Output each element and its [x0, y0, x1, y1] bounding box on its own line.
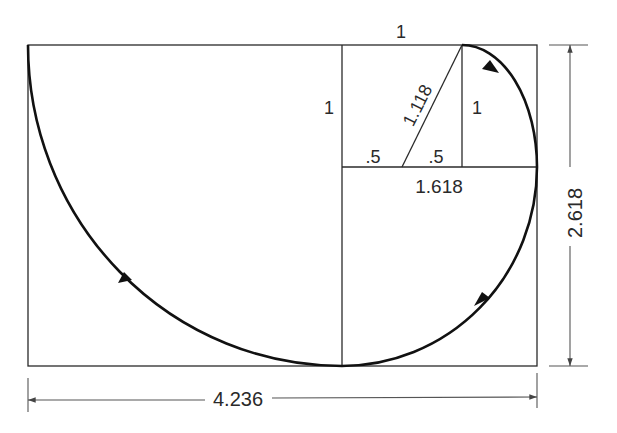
label-left-side: 1 — [324, 98, 334, 118]
outer-rectangle — [28, 45, 537, 366]
width-dimension: 4.236 — [28, 373, 537, 412]
svg-text:2.618: 2.618 — [564, 188, 586, 238]
label-inner-vertical: 1 — [472, 98, 482, 118]
spiral-arrow-icon — [482, 60, 499, 73]
label-half-left: .5 — [365, 147, 380, 167]
spiral-curve — [28, 45, 537, 366]
golden-spiral-diagram: 1 1 1 1.118 .5 .5 1.618 2.618 4.236 — [0, 0, 617, 433]
label-top-side: 1 — [396, 22, 406, 42]
svg-text:4.236: 4.236 — [213, 388, 263, 410]
height-dimension: 2.618 — [549, 45, 588, 366]
label-diagonal: 1.118 — [399, 81, 437, 129]
label-half-right: .5 — [428, 147, 443, 167]
label-golden-width: 1.618 — [415, 176, 463, 197]
